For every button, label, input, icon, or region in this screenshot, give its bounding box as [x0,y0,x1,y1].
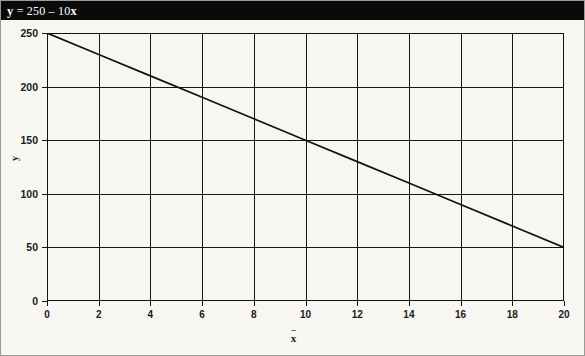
figure-container: y = 250 – 10x y 02468101214161820 050100… [0,0,585,356]
y-tick-label: 0 [5,295,38,307]
gridline-horizontal [47,87,564,88]
x-tick-label: 10 [300,309,311,320]
x-tick-mark [357,301,358,306]
gridline-vertical [150,33,151,301]
gridline-vertical [99,33,100,301]
y-axis-label: y [9,156,20,161]
x-tick-mark [202,301,203,306]
gridline-vertical [254,33,255,301]
x-tick-mark [461,301,462,306]
x-tick-label: 4 [148,309,154,320]
y-tick-mark [42,140,47,141]
x-tick-label: 8 [251,309,257,320]
x-tick-mark [409,301,410,306]
x-tick-label: 20 [558,309,569,320]
plot-area [47,33,564,301]
x-tick-label: 0 [44,309,50,320]
y-tick-label: 100 [5,188,38,200]
gridline-horizontal [47,140,564,141]
y-tick-label: 150 [5,134,38,146]
y-tick-mark [42,247,47,248]
y-tick-mark [42,194,47,195]
y-tick-mark [42,87,47,88]
x-tick-mark [306,301,307,306]
equation-variable-x: x [70,4,76,18]
equation-body: = 250 – 10 [13,4,70,18]
gridline-vertical [306,33,307,301]
x-label-text: x [291,332,297,344]
y-tick-mark [42,301,47,302]
x-tick-mark [512,301,513,306]
x-tick-label: 2 [96,309,102,320]
x-tick-label: 18 [507,309,518,320]
gridline-vertical [461,33,462,301]
x-tick-mark [254,301,255,306]
y-tick-label: 200 [5,81,38,93]
gridline-vertical [202,33,203,301]
gridline-horizontal [47,247,564,248]
gridline-vertical [512,33,513,301]
y-tick-label: 250 [5,27,38,39]
x-tick-mark [47,301,48,306]
title-bar: y = 250 – 10x [1,1,585,20]
x-tick-label: 16 [455,309,466,320]
gridline-vertical [357,33,358,301]
x-axis-label: –x [1,327,585,344]
x-tick-mark [150,301,151,306]
gridline-vertical [409,33,410,301]
x-tick-label: 14 [403,309,414,320]
x-tick-mark [564,301,565,306]
y-tick-mark [42,33,47,34]
y-tick-label: 50 [5,241,38,253]
x-tick-label: 12 [352,309,363,320]
x-tick-mark [99,301,100,306]
x-tick-label: 6 [199,309,205,320]
gridline-horizontal [47,194,564,195]
